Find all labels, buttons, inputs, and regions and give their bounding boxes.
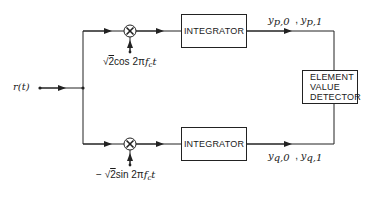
- bottom-multiplier: [124, 138, 136, 150]
- junction-dot: [81, 86, 84, 89]
- minus-sign: −: [96, 169, 102, 180]
- detector-line-1: ELEMENT: [310, 72, 354, 82]
- output-separator: ,: [295, 150, 298, 161]
- bottom-output-labels: yq,0 , yq,1: [268, 150, 322, 163]
- func-text: sin 2π: [116, 169, 144, 180]
- time-var: t: [151, 169, 155, 180]
- sin-oscillator-label: − √2sin 2πfct: [96, 169, 155, 182]
- integrator-label: INTEGRATOR: [184, 139, 244, 149]
- func-text: cos 2π: [114, 56, 145, 67]
- top-multiplier: [124, 25, 136, 37]
- input-signal-label: r(t): [13, 81, 30, 92]
- time-var: t: [153, 56, 157, 67]
- output-separator: ,: [295, 14, 298, 25]
- detector-line-2: VALUE: [310, 82, 340, 92]
- output-sub: p,1: [306, 16, 322, 27]
- detector-line-3: DETECTOR: [310, 92, 361, 102]
- cos-oscillator-label: √2cos 2πfct: [103, 56, 157, 69]
- top-integrator-block: INTEGRATOR: [181, 14, 247, 48]
- output-sub: q,1: [306, 152, 322, 163]
- output-sub: p,0: [274, 16, 290, 27]
- integrator-label: INTEGRATOR: [184, 26, 244, 36]
- input-dot: [38, 86, 41, 89]
- bottom-integrator-block: INTEGRATOR: [181, 127, 247, 161]
- top-output-labels: yp,0 , yp,1: [268, 14, 322, 27]
- output-sub: q,0: [274, 152, 290, 163]
- element-value-detector-block: ELEMENT VALUE DETECTOR: [302, 70, 358, 104]
